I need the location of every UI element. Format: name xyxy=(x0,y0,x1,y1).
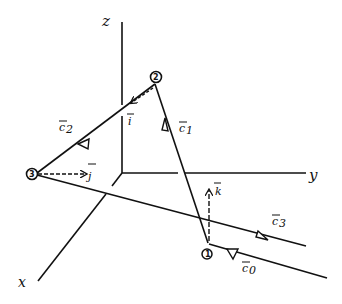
point-1: 1 xyxy=(202,249,212,259)
i-label: i xyxy=(127,114,134,128)
point-3: 3 xyxy=(27,169,38,180)
c0-label: c 0 xyxy=(242,262,256,277)
c1-label: c 1 xyxy=(179,122,193,137)
svg-text:1: 1 xyxy=(186,124,193,137)
c2-label: c 2 xyxy=(59,121,73,136)
line-c1 xyxy=(155,84,208,243)
svg-text:2: 2 xyxy=(153,73,159,82)
svg-text:2: 2 xyxy=(65,123,73,136)
svg-text:0: 0 xyxy=(249,264,256,277)
svg-text:i: i xyxy=(128,115,132,128)
svg-text:j: j xyxy=(85,170,92,183)
svg-text:3: 3 xyxy=(279,217,286,230)
point-2: 2 xyxy=(151,72,162,83)
y-axis-label: y xyxy=(308,166,318,184)
vector-diagram: z y x c 2 c 1 c 3 c 0 i xyxy=(0,0,342,304)
line-c3 xyxy=(37,175,306,246)
line-c2 xyxy=(37,84,155,173)
k-label: k xyxy=(214,183,222,198)
x-axis xyxy=(38,173,122,281)
svg-text:c: c xyxy=(59,121,65,134)
i-vector xyxy=(131,88,153,103)
svg-text:c: c xyxy=(179,122,185,135)
svg-text:c: c xyxy=(272,215,278,228)
svg-text:1: 1 xyxy=(205,250,211,259)
c3-label: c 3 xyxy=(272,215,286,230)
x-axis-label: x xyxy=(18,274,26,290)
j-label: j xyxy=(85,164,96,183)
c0-arrow-icon xyxy=(227,249,238,259)
svg-text:k: k xyxy=(215,185,222,198)
svg-text:c: c xyxy=(242,262,248,275)
svg-text:3: 3 xyxy=(29,170,35,179)
z-axis-label: z xyxy=(101,12,110,30)
